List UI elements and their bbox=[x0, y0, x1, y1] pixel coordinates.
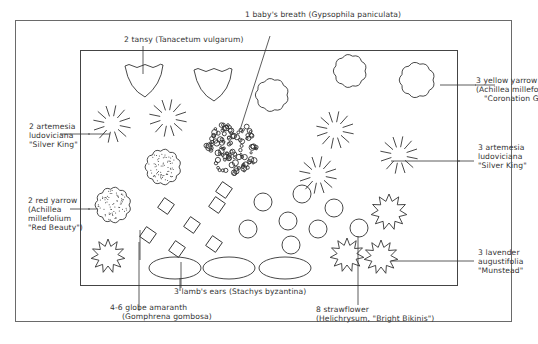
label-line: "Coronation Gold") bbox=[476, 94, 538, 103]
label-line: "Silver King" bbox=[29, 140, 78, 149]
label-line: millefolium bbox=[28, 214, 83, 223]
tansy-symbols bbox=[125, 64, 232, 101]
label-lavender: 3 lavender augustifolia "Munstead" bbox=[478, 248, 524, 275]
babys-breath-symbol bbox=[204, 123, 258, 176]
label-line: (Achillea bbox=[28, 205, 83, 214]
label-line: (Gomphrena gombosa) bbox=[110, 312, 212, 321]
label-line: 3 yellow yarrow bbox=[476, 76, 538, 85]
red-yarrow-symbols bbox=[95, 149, 180, 223]
label-tansy: 2 tansy (Tanacetum vulgarum) bbox=[124, 35, 243, 44]
label-line: 8 strawflower bbox=[316, 305, 434, 314]
label-line: 4-6 globe amaranth bbox=[110, 303, 212, 312]
label-globe-amaranth: 4-6 globe amaranth (Gomphrena gombosa) bbox=[110, 303, 212, 321]
label-line: (Helichrysum, "Bright Bikinis") bbox=[316, 314, 434, 323]
label-line: "Red Beauty") bbox=[28, 223, 83, 232]
label-lambs-ears: 3 lamb's ears (Stachys byzantina) bbox=[174, 287, 306, 296]
label-red-yarrow: 2 red yarrow (Achillea millefolium "Red … bbox=[28, 196, 83, 232]
label-line: 3 artemesia bbox=[478, 143, 527, 152]
label-line: 2 tansy (Tanacetum vulgarum) bbox=[124, 35, 243, 44]
label-line: ludoviciana bbox=[29, 131, 78, 140]
leader-lines bbox=[60, 36, 495, 311]
label-line: 2 red yarrow bbox=[28, 196, 83, 205]
yellow-yarrow-symbols bbox=[255, 55, 434, 112]
label-yellow-yarrow: 3 yellow yarrow (Achillea millefolium "C… bbox=[476, 76, 538, 103]
label-line: ludoviciana bbox=[478, 152, 527, 161]
artemesia-symbols bbox=[93, 99, 417, 193]
label-strawflower: 8 strawflower (Helichrysum, "Bright Biki… bbox=[316, 305, 434, 323]
strawflower-symbols bbox=[239, 185, 368, 254]
globe-amaranth-symbols bbox=[140, 182, 233, 258]
label-line: 1 baby's breath (Gypsophila paniculata) bbox=[245, 10, 401, 19]
label-line: "Munstead" bbox=[478, 266, 524, 275]
label-artemesia-left: 2 artemesia ludoviciana "Silver King" bbox=[29, 122, 78, 149]
label-line: augustifolia bbox=[478, 257, 524, 266]
label-artemesia-right: 3 artemesia ludoviciana "Silver King" bbox=[478, 143, 527, 170]
lambs-ears-symbols bbox=[149, 257, 311, 279]
label-line: 3 lamb's ears (Stachys byzantina) bbox=[174, 287, 306, 296]
label-line: 3 lavender bbox=[478, 248, 524, 257]
label-babys-breath: 1 baby's breath (Gypsophila paniculata) bbox=[245, 10, 401, 19]
label-line: (Achillea millefolium bbox=[476, 85, 538, 94]
label-line: "Silver King" bbox=[478, 161, 527, 170]
label-line: 2 artemesia bbox=[29, 122, 78, 131]
